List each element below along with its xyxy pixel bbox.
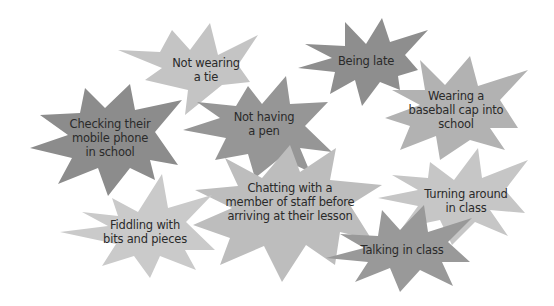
star-label-turning-around: Turning around in class <box>424 187 507 215</box>
star-label-being-late: Being late <box>338 54 394 68</box>
star-label-not-wearing-a-tie: Not wearing a tie <box>172 56 240 84</box>
star-label-chatting-with-staff: Chatting with a member of staff before a… <box>226 181 355 223</box>
star-label-fiddling-with-bits: Fiddling with bits and pieces <box>103 218 187 246</box>
star-label-checking-mobile-phone: Checking their mobile phone in school <box>70 117 151 159</box>
star-label-not-having-a-pen: Not having a pen <box>234 110 295 138</box>
star-label-wearing-baseball-cap: Wearing a baseball cap into school <box>409 89 504 131</box>
star-label-talking-in-class: Talking in class <box>361 243 444 257</box>
